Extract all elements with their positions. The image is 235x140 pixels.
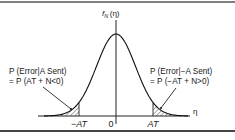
tick-label-zero: 0	[108, 119, 113, 129]
gaussian-diagram: η fN(η) −AT 0 AT P (Error|A Sent) = P (A…	[0, 0, 235, 140]
x-axis-label: η	[193, 107, 197, 116]
tick-label-neg-at: −AT	[71, 119, 89, 129]
right-annotation-line2: = P (−AT + N>0)	[150, 77, 209, 86]
right-annotation-leader	[161, 88, 176, 108]
y-axis-label: fN(η)	[102, 9, 120, 19]
left-annotation-line1: P (Error|A Sent)	[9, 67, 67, 76]
left-annotation-dot	[70, 108, 72, 110]
left-annotation-line2: = P (AT + N<0)	[9, 77, 64, 86]
y-axis-label-sub: N	[104, 13, 108, 19]
tick-label-at: AT	[147, 119, 160, 129]
right-annotation-line1: P (Error|−A Sent)	[150, 67, 213, 76]
y-axis-label-arg: (η)	[110, 9, 120, 18]
right-annotation: P (Error|−A Sent) = P (−AT + N>0)	[150, 67, 213, 109]
left-annotation: P (Error|A Sent) = P (AT + N<0)	[9, 67, 72, 110]
right-annotation-dot	[160, 107, 162, 109]
left-annotation-leader	[43, 87, 71, 109]
